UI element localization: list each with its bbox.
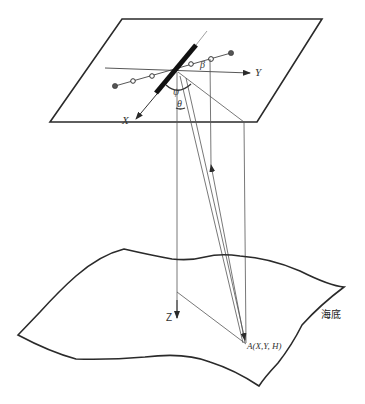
seabed-label: 海底 — [321, 308, 341, 320]
across-track-line — [178, 72, 244, 122]
incident-ray-to-a — [186, 78, 245, 340]
vertical-from-edge — [244, 122, 246, 343]
return-ray-upper — [210, 59, 211, 165]
beta-label: β — [199, 59, 205, 70]
z-axis-label: Z — [166, 312, 172, 323]
seabed-surface — [18, 249, 344, 386]
y-axis-label: Y — [255, 66, 263, 78]
psi-label: ψ — [173, 86, 180, 97]
point-a-label: A(X,Y, H) — [246, 341, 281, 351]
slant-beam-to-a — [180, 76, 243, 343]
x-axis-label: X — [121, 114, 130, 126]
transducer-axis-extension — [196, 31, 207, 45]
theta-label: θ — [177, 98, 182, 109]
sonar-geometry-diagram: Y X β ψ θ Z A(X,Y, H) 海底 — [0, 0, 365, 404]
